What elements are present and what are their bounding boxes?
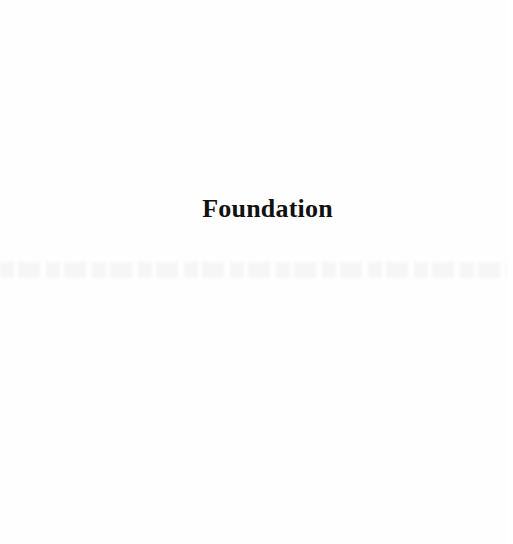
bleed-through-text xyxy=(0,262,507,278)
page-title: Foundation xyxy=(0,192,513,226)
